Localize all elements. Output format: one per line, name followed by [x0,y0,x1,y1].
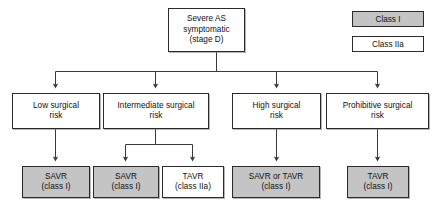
flowchart-canvas: Severe AS symptomatic (stage D) Low surg… [0,0,441,208]
legend-label: Class I [375,15,400,24]
node-line: TAVR [368,172,389,183]
node-line: symptomatic [183,25,230,36]
node-line: (class I) [363,182,392,193]
node-line: TAVR [183,172,204,183]
legend-item-class-iia: Class IIa [352,36,424,52]
legend-label: Class IIa [372,40,404,49]
node-line: SAVR or TAVR [249,172,304,183]
node-treatment-savr-intermediate-risk[interactable]: SAVR (class I) [93,166,159,198]
node-line: (class IIa) [175,182,211,193]
node-treatment-tavr-intermediate-risk[interactable]: TAVR (class IIa) [162,166,224,198]
node-line: (class I) [41,182,70,193]
node-treatment-savr-or-tavr-high-risk[interactable]: SAVR or TAVR (class I) [232,166,320,198]
node-line: risk [371,111,384,122]
node-line: risk [150,111,163,122]
node-intermediate-surgical-risk[interactable]: Intermediate surgical risk [103,93,209,129]
node-severe-as-symptomatic[interactable]: Severe AS symptomatic (stage D) [168,8,245,52]
node-line: (class I) [111,182,140,193]
node-line: SAVR [45,172,67,183]
node-high-surgical-risk[interactable]: High surgical risk [232,93,321,129]
node-prohibitive-surgical-risk[interactable]: Prohibitive surgical risk [326,93,429,129]
node-line: High surgical [253,101,301,112]
node-line: SAVR [115,172,137,183]
node-line: risk [270,111,283,122]
node-line: (stage D) [189,35,223,46]
node-treatment-savr-low-risk[interactable]: SAVR (class I) [22,166,90,198]
node-line: Severe AS [187,14,226,25]
node-line: (class I) [261,182,290,193]
node-low-surgical-risk[interactable]: Low surgical risk [12,93,100,129]
node-line: Prohibitive surgical [343,101,413,112]
node-treatment-tavr-prohibitive-risk[interactable]: TAVR (class I) [347,166,409,198]
node-line: Intermediate surgical [117,101,194,112]
legend-item-class-i: Class I [352,11,424,27]
node-line: risk [50,111,63,122]
node-line: Low surgical [33,101,79,112]
